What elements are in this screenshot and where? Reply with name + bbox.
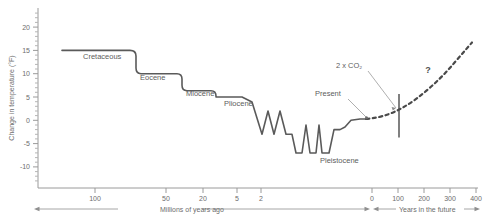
y-tick-label-neg5: -5 xyxy=(24,140,30,147)
x-tick-label-year100: 100 xyxy=(392,195,404,202)
epoch-label-pliocene: Pliocene xyxy=(224,99,253,108)
annotation-2x-co2-leader xyxy=(368,71,396,108)
past-span-arrow-left xyxy=(34,207,40,211)
future-projection-series xyxy=(366,43,472,120)
epoch-label-pleistocene: Pleistocene xyxy=(320,156,359,165)
x-tick-label-year400: 400 xyxy=(470,195,482,202)
x-tick-label-50mya: 50 xyxy=(162,195,170,202)
chart-canvas: 20 15 10 5 0 -5 -10 xyxy=(0,0,485,217)
future-projection-line xyxy=(366,43,472,120)
x-axis: 100 50 20 5 2 0 100 200 300 xyxy=(38,188,482,202)
x-tick-label-year0: 0 xyxy=(370,195,374,202)
y-tick-label-10: 10 xyxy=(22,70,30,77)
annotation-present-dot xyxy=(365,116,368,119)
footer-axis-spans: Millions of years ago Years in the futur… xyxy=(34,206,480,214)
y-axis: 20 15 10 5 0 -5 -10 xyxy=(8,8,38,188)
annotation-question-mark: ? xyxy=(425,65,431,75)
annotation-present-leader xyxy=(348,99,366,117)
annotation-2x-co2: 2 x CO₂ xyxy=(336,61,362,70)
x-axis-ticks-past: 100 50 20 5 2 xyxy=(89,188,263,202)
y-tick-label-5: 5 xyxy=(26,94,30,101)
x-tick-label-5mya: 5 xyxy=(235,195,239,202)
y-axis-title: Change in temperature (°F) xyxy=(8,55,16,140)
past-temperature-series xyxy=(62,50,366,153)
climate-temperature-chart: 20 15 10 5 0 -5 -10 xyxy=(0,0,485,217)
epoch-label-eocene: Eocene xyxy=(140,73,165,82)
y-tick-label-15: 15 xyxy=(22,47,30,54)
x-tick-label-2mya: 2 xyxy=(259,195,263,202)
x-tick-label-20mya: 20 xyxy=(199,195,207,202)
annotations: 2 x CO₂ Present ? xyxy=(315,61,431,119)
x-axis-title-future: Years in the future xyxy=(399,206,456,213)
past-temperature-line xyxy=(62,50,366,153)
x-axis-ticks-future: 0 100 200 300 400 xyxy=(370,188,482,202)
x-tick-label-year300: 300 xyxy=(444,195,456,202)
y-tick-label-neg10: -10 xyxy=(20,163,30,170)
y-tick-label-20: 20 xyxy=(22,24,30,31)
epoch-label-cretaceous: Cretaceous xyxy=(83,52,122,61)
future-span-arrow-left xyxy=(373,207,379,211)
x-tick-label-year200: 200 xyxy=(418,195,430,202)
epoch-label-miocene: Miocene xyxy=(186,89,214,98)
annotation-present: Present xyxy=(315,89,342,98)
future-span-arrow-right xyxy=(475,207,481,211)
epoch-labels: Cretaceous Eocene Miocene Pliocene Pleis… xyxy=(83,52,359,165)
y-tick-label-0: 0 xyxy=(26,117,30,124)
x-tick-label-100mya: 100 xyxy=(89,195,101,202)
past-span-arrow-right xyxy=(365,207,371,211)
x-axis-title-past: Millions of years ago xyxy=(160,206,224,214)
